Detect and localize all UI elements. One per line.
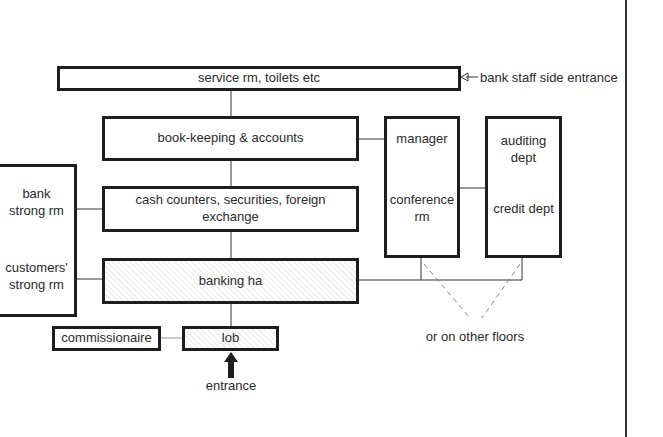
lobby-label: lob xyxy=(222,330,239,347)
manager-conference-box: manager conference rm xyxy=(384,116,460,258)
lobby-box: lob xyxy=(182,326,279,351)
entrance-label: entrance xyxy=(200,378,262,395)
customers-strong-room-box: customers' strong rm xyxy=(0,239,77,317)
banking-hall-label: banking ha xyxy=(199,273,263,290)
service-room-label: service rm, toilets etc xyxy=(198,70,320,87)
conference-room-label: conference rm xyxy=(387,192,457,226)
service-room-box: service rm, toilets etc xyxy=(57,66,461,91)
customers-strong-room-label: customers' strong rm xyxy=(3,260,70,294)
cash-counters-box: cash counters, securities, foreign excha… xyxy=(102,186,359,232)
credit-dept-label: credit dept xyxy=(493,201,554,218)
manager-label: manager xyxy=(396,131,447,148)
commissionaire-label: commissionaire xyxy=(61,330,151,347)
other-floors-label: or on other floors xyxy=(410,329,540,346)
commissionaire-box: commissionaire xyxy=(52,326,161,351)
bookkeeping-box: book-keeping & accounts xyxy=(102,116,359,161)
bookkeeping-label: book-keeping & accounts xyxy=(158,130,304,147)
banking-hall-box: banking ha xyxy=(102,258,359,304)
staff-entrance-label: bank staff side entrance xyxy=(480,70,618,87)
cash-counters-label: cash counters, securities, foreign excha… xyxy=(125,192,336,226)
auditing-credit-box: auditing dept credit dept xyxy=(485,116,562,258)
bank-strong-room-label: bank strong rm xyxy=(9,186,64,220)
auditing-dept-label: auditing dept xyxy=(488,133,559,167)
bank-strong-room-box: bank strong rm xyxy=(0,164,77,240)
